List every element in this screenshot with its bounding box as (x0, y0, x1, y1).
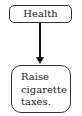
node-action-line-1: Raise (21, 71, 70, 84)
edge-connector-line (39, 23, 41, 58)
node-action-line-3: taxes. (21, 96, 70, 109)
node-action-line-2: cigarette (21, 84, 70, 97)
node-raise-cigarette-taxes: Raise cigarette taxes. (11, 65, 71, 113)
flowchart-canvas: Health Raise cigarette taxes. (0, 0, 82, 116)
node-health-label: Health (23, 9, 57, 19)
node-health: Health (9, 5, 72, 23)
arrow-down-icon (36, 57, 44, 64)
